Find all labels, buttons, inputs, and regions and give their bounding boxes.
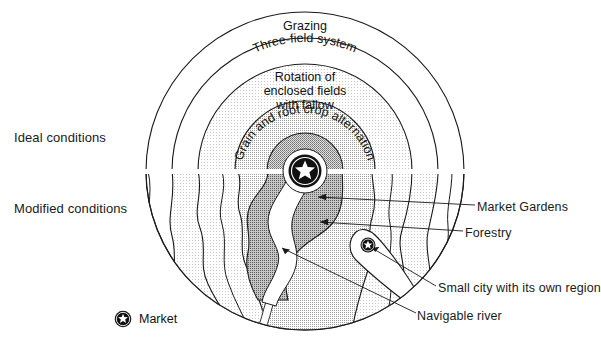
legend-label-market: Market [139,312,177,326]
market-symbol [283,149,327,193]
ring-label-rotation-line1: Rotation of [275,70,336,84]
ring-label-rotation-line2: enclosed fields [264,84,347,98]
ring-label-grazing: Grazing [283,19,327,33]
callout-label-navigable-river: Navigable river [417,309,502,323]
label-ideal-conditions: Ideal conditions [14,130,106,145]
callout-label-market-gardens: Market Gardens [477,200,568,214]
small-city-symbol [361,238,376,253]
label-modified-conditions: Modified conditions [14,201,127,216]
callout-label-forestry: Forestry [465,226,512,240]
legend-star-in-circle-icon [114,310,132,328]
legend: Market [114,310,177,328]
callout-label-small-city: Small city with its own region [438,281,601,295]
